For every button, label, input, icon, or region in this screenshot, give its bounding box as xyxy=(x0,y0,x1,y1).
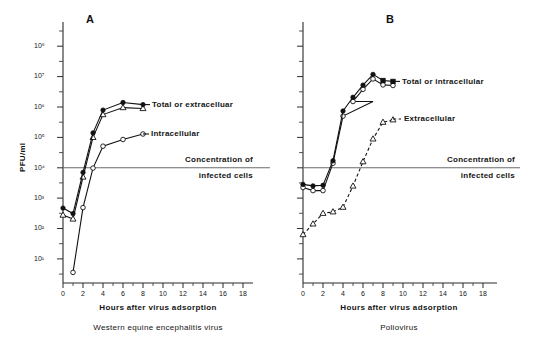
panel-b-series-extracellular-line xyxy=(303,120,393,235)
panel-a-ytick-5: 10⁵ xyxy=(34,133,45,140)
panel-a-ytick-8: 10⁸ xyxy=(34,42,45,49)
panel-a-y-minor-ticks xyxy=(59,31,63,274)
panel-b-xtick-8: 8 xyxy=(373,290,393,297)
panel-a-x-axis-title: Hours after virus adsorption xyxy=(58,303,258,312)
panel-b-xtick-2: 2 xyxy=(313,290,333,297)
panel-b-series-intracellular-markers xyxy=(301,77,396,193)
panel-a-annotation-intracellular: Intracellular xyxy=(151,129,200,138)
panel-a-caption: Western equine encephalitis virus xyxy=(38,323,278,332)
panel-b-y-minor-ticks xyxy=(299,31,303,274)
panel-b-x-axis-title: Hours after virus adsorption xyxy=(299,303,499,312)
figure-root: A xyxy=(0,0,551,339)
panel-a: A xyxy=(0,0,275,339)
panel-a-xtick-4: 4 xyxy=(93,290,113,297)
panel-a-xtick-8: 8 xyxy=(133,290,153,297)
panel-a-xtick-16: 16 xyxy=(213,290,233,297)
panel-a-reference-label-line1: Concentration of xyxy=(128,152,253,167)
panel-a-annotation-total: Total or extracelluar xyxy=(152,100,233,109)
panel-b-series-extracellular-markers xyxy=(300,117,396,237)
panel-a-ytick-2: 10² xyxy=(34,224,44,231)
panel-b-annotation-extracellular: Extracellular xyxy=(404,114,455,123)
panel-a-xtick-2: 2 xyxy=(73,290,93,297)
panel-a-xtick-14: 14 xyxy=(193,290,213,297)
panel-b-xtick-10: 10 xyxy=(393,290,413,297)
panel-a-xtick-12: 12 xyxy=(173,290,193,297)
panel-b-caption: Poliovirus xyxy=(299,323,499,332)
panel-a-x-ticks xyxy=(63,283,243,288)
panel-b-xtick-0: 0 xyxy=(293,290,313,297)
panel-a-reference-label-line2: infected cells xyxy=(128,168,253,183)
panel-a-xtick-6: 6 xyxy=(113,290,133,297)
panel-b-xtick-18: 18 xyxy=(473,290,493,297)
panel-a-ytick-6: 10⁶ xyxy=(34,103,45,110)
panel-a-xtick-10: 10 xyxy=(153,290,173,297)
panel-a-ytick-7: 10⁷ xyxy=(34,72,44,79)
panel-a-xtick-0: 0 xyxy=(53,290,73,297)
panel-b-reference-label-line1: Concentration of xyxy=(385,152,515,167)
panel-a-y-axis-title: PFU/ml xyxy=(18,143,27,172)
panel-b-series-total-markers xyxy=(301,72,395,188)
panel-b-reference-label-line2: infected cells xyxy=(385,168,515,183)
panel-b-xtick-14: 14 xyxy=(433,290,453,297)
panel-b-xtick-4: 4 xyxy=(333,290,353,297)
panel-b-series-intracellular-line xyxy=(303,79,393,191)
panel-a-ytick-3: 10³ xyxy=(34,194,44,201)
panel-a-xtick-18: 18 xyxy=(233,290,253,297)
panel-b-series-total-line xyxy=(303,74,393,185)
panel-b-xtick-16: 16 xyxy=(453,290,473,297)
panel-b-x-ticks xyxy=(303,283,483,288)
panel-b-xtick-12: 12 xyxy=(413,290,433,297)
panel-a-ytick-1: 10¹ xyxy=(34,255,44,262)
panel-b-xtick-6: 6 xyxy=(353,290,373,297)
panel-a-ytick-4: 10⁴ xyxy=(34,164,45,171)
panel-b-annotation-total: Total or intracellular xyxy=(402,77,484,86)
panel-b: B xyxy=(275,0,551,339)
